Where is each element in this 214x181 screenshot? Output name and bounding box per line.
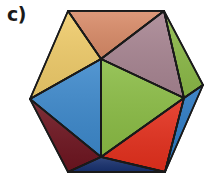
icosahedron-diagram (0, 0, 214, 181)
